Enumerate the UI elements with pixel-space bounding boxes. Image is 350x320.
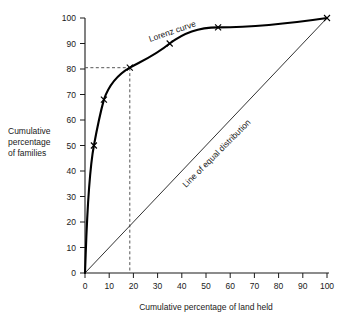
x-tick-label: 30 (153, 281, 163, 291)
lorenz-curve-chart: 0 10 20 30 40 50 60 70 80 90 100 (0, 0, 350, 320)
y-tick-label: 90 (67, 39, 77, 49)
y-tick-label: 70 (67, 90, 77, 100)
y-tick-label: 0 (71, 268, 76, 278)
y-tick-label: 30 (67, 192, 77, 202)
x-tick-label: 80 (274, 281, 284, 291)
x-tick-label: 20 (129, 281, 139, 291)
y-axis-title-line-3: of families (8, 148, 70, 159)
data-point-marker (167, 41, 173, 47)
equality-line-group (85, 18, 327, 273)
series-annotations: Lorenz curve Line of equal distribution (147, 18, 252, 189)
y-tick-label: 20 (67, 217, 77, 227)
y-tick-label: 40 (67, 166, 77, 176)
lorenz-data-markers (91, 15, 330, 149)
y-tick-label: 100 (62, 13, 76, 23)
x-axis-tick-labels: 0 10 20 30 40 50 60 70 80 90 100 (83, 281, 335, 291)
y-axis-title-line-1: Cumulative (8, 126, 70, 137)
x-axis-title: Cumulative percentage of land held (139, 302, 273, 312)
x-axis-ticks (85, 273, 327, 278)
x-tick-label: 10 (104, 281, 114, 291)
y-axis-title-line-2: percentage (8, 137, 70, 148)
line-of-equal-distribution-label: Line of equal distribution (180, 117, 252, 189)
x-tick-label: 90 (298, 281, 308, 291)
x-tick-label: 40 (177, 281, 187, 291)
x-tick-label: 100 (320, 281, 334, 291)
x-tick-label: 0 (83, 281, 88, 291)
chart-canvas: 0 10 20 30 40 50 60 70 80 90 100 (0, 0, 350, 320)
reference-lines-group (85, 68, 130, 273)
y-axis-title: Cumulative percentage of families (8, 126, 70, 159)
x-tick-label: 70 (250, 281, 260, 291)
y-tick-label: 10 (67, 243, 77, 253)
y-tick-label: 80 (67, 64, 77, 74)
x-tick-label: 50 (201, 281, 211, 291)
y-axis-ticks (80, 18, 85, 273)
line-of-equal-distribution (85, 18, 327, 273)
y-tick-label: 60 (67, 115, 77, 125)
x-tick-label: 60 (225, 281, 235, 291)
